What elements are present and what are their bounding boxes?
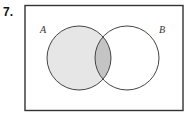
set-b-label: B (159, 24, 165, 35)
venn-diagram: A B (0, 0, 186, 115)
set-a-label: A (39, 24, 47, 35)
